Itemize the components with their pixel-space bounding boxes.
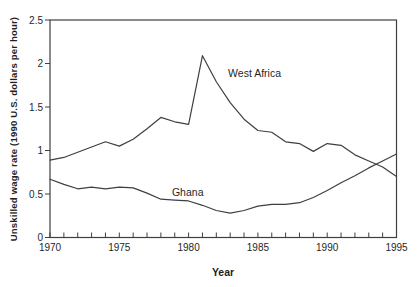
- series-label-ghana: Ghana: [172, 186, 204, 198]
- series-line-ghana: [50, 154, 397, 213]
- series-line-west-africa: [50, 56, 397, 177]
- y-tick-label: 0.5: [29, 189, 43, 200]
- plot-frame: [50, 20, 397, 238]
- y-tick-label: 1.5: [29, 102, 43, 113]
- unskilled-wage-rate-chart: 19701975198019851990199500.511.522.5West…: [0, 0, 418, 287]
- x-tick-label: 1995: [385, 242, 408, 253]
- x-tick-label: 1985: [247, 242, 270, 253]
- x-tick-label: 1970: [39, 242, 62, 253]
- y-tick-label: 2.5: [29, 15, 43, 26]
- y-axis-title: Unskilled wage rate (1990 U.S. dollars p…: [8, 17, 19, 241]
- plot-area: 19701975198019851990199500.511.522.5West…: [0, 0, 418, 287]
- x-tick-label: 1980: [177, 242, 200, 253]
- x-axis-title: Year: [212, 266, 234, 278]
- y-tick-label: 1: [37, 145, 43, 156]
- x-tick-label: 1990: [316, 242, 339, 253]
- y-tick-label: 0: [37, 232, 43, 243]
- x-tick-label: 1975: [108, 242, 131, 253]
- y-tick-label: 2: [37, 58, 43, 69]
- series-label-west-africa: West Africa: [228, 67, 281, 79]
